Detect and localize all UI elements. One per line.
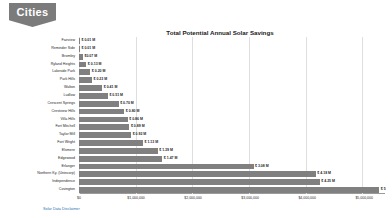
- bar[interactable]: [79, 54, 83, 60]
- chart-title: Total Potential Annual Solar Savings: [120, 29, 320, 37]
- category-label: Covington: [59, 186, 75, 194]
- bar-value-label: $ 4.25 M: [321, 178, 335, 186]
- category-label: Elsmere: [62, 147, 75, 155]
- category-label: Reminder Side: [51, 45, 75, 53]
- solar-savings-dashboard: Cities Total Potential Annual Solar Savi…: [0, 0, 392, 218]
- bar-row[interactable]: $ 4.25 M: [79, 178, 385, 186]
- bar[interactable]: [79, 156, 162, 162]
- bar-row[interactable]: $ 0.86 M: [79, 116, 385, 124]
- category-label: Fort Wright: [57, 139, 75, 147]
- bar-row[interactable]: $ 0.01 M: [79, 37, 385, 45]
- bar-value-label: $ 0.23 M: [94, 76, 108, 84]
- category-label: Bromley: [62, 53, 75, 61]
- category-label: Park Hills: [60, 76, 75, 84]
- category-axis-labels: FairviewReminder SideBromleyRyland Heigh…: [41, 37, 77, 194]
- category-label: Ryland Heights: [51, 61, 75, 69]
- logo-label: Cities: [9, 6, 56, 18]
- bar-value-label: $ 0.20 M: [92, 68, 106, 76]
- category-label: Crescent Springs: [47, 100, 75, 108]
- bar[interactable]: [79, 93, 108, 99]
- bar[interactable]: [79, 38, 80, 44]
- bar[interactable]: [79, 164, 254, 170]
- bar[interactable]: [79, 171, 316, 177]
- bar-row[interactable]: $ 0.01 M: [79, 45, 385, 53]
- bar[interactable]: [79, 132, 131, 138]
- bar-row[interactable]: $ 0.23 M: [79, 76, 385, 84]
- category-label: Walton: [64, 84, 75, 92]
- bar[interactable]: [79, 109, 124, 115]
- bar-value-label: $ 0.01 M: [82, 37, 96, 45]
- category-label-row: Taylor Mill: [41, 131, 77, 139]
- category-label-row: Ryland Heights: [41, 61, 77, 69]
- bar[interactable]: [79, 101, 119, 107]
- category-label: Taylor Mill: [59, 131, 75, 139]
- category-label-row: Erlanger: [41, 163, 77, 171]
- bar-value-label: $ 3.08 M: [255, 163, 269, 171]
- bar[interactable]: [79, 179, 320, 185]
- bar-row[interactable]: $ 3.08 M: [79, 163, 385, 171]
- bar-row[interactable]: $ 0.13 M: [79, 61, 385, 69]
- x-tick-label: $1,000,000: [127, 195, 145, 201]
- bar-value-label: $ 1.39 M: [159, 147, 173, 155]
- x-tick-label: $2,000,000: [184, 195, 202, 201]
- solar-data-disclaimer-link[interactable]: Solar Data Disclaimer: [43, 206, 80, 212]
- category-label: Crestview Hills: [51, 108, 75, 116]
- category-label-row: Park Hills: [41, 76, 77, 84]
- bar-row[interactable]: $ 0.20 M: [79, 68, 385, 76]
- x-tick-label: $3,000,000: [241, 195, 259, 201]
- bar-row[interactable]: $ 5: [79, 186, 385, 194]
- category-label-row: Fort Wright: [41, 139, 77, 147]
- category-label-row: Walton: [41, 84, 77, 92]
- bar[interactable]: [79, 187, 379, 193]
- bar[interactable]: [79, 77, 92, 83]
- category-label-row: Fairview: [41, 37, 77, 45]
- x-axis-tick-labels: $0$1,000,000$2,000,000$3,000,000$4,000,0…: [79, 195, 387, 204]
- bar[interactable]: [79, 140, 143, 146]
- bar-row[interactable]: $ 0.80 M: [79, 108, 385, 116]
- bar[interactable]: [79, 69, 90, 75]
- category-label: Ludlow: [64, 92, 75, 100]
- bar[interactable]: [79, 148, 158, 154]
- category-label-row: Elsmere: [41, 147, 77, 155]
- category-label: Northern Ky. (Unincorp): [37, 170, 75, 178]
- bar-value-label: $ 0.92 M: [133, 131, 147, 139]
- bar-value-label: $ 0.86 M: [129, 116, 143, 124]
- bar[interactable]: [79, 46, 80, 52]
- bar-row[interactable]: $0.07 M: [79, 53, 385, 61]
- bar[interactable]: [79, 85, 102, 91]
- bar-row[interactable]: $ 1.13 M: [79, 139, 385, 147]
- category-label-row: Edgewood: [41, 155, 77, 163]
- bar-value-label: $ 0.51 M: [109, 92, 123, 100]
- category-label: Villa Hills: [60, 116, 75, 124]
- category-label: Edgewood: [58, 155, 75, 163]
- bar-row[interactable]: $ 0.41 M: [79, 84, 385, 92]
- bar-row[interactable]: $ 1.47 M: [79, 155, 385, 163]
- category-label-row: Crestview Hills: [41, 108, 77, 116]
- x-tick-label: $5,000,000: [355, 195, 373, 201]
- category-label-row: Villa Hills: [41, 116, 77, 124]
- bar-value-label: $ 5: [381, 186, 386, 194]
- category-label: Fairview: [62, 37, 75, 45]
- x-tick-label: $4,000,000: [298, 195, 316, 201]
- cities-logo[interactable]: Cities: [9, 3, 56, 27]
- bar-row[interactable]: $ 0.92 M: [79, 131, 385, 139]
- bar-value-label: $ 0.70 M: [120, 100, 134, 108]
- bar-value-label: $ 0.13 M: [88, 61, 102, 69]
- bar-row[interactable]: $ 0.89 M: [79, 123, 385, 131]
- category-label-row: Fort Mitchell: [41, 123, 77, 131]
- bar-value-label: $ 0.80 M: [126, 108, 140, 116]
- category-label-row: Bromley: [41, 53, 77, 61]
- bar[interactable]: [79, 124, 129, 130]
- category-label-row: Northern Ky. (Unincorp): [41, 170, 77, 178]
- bar-row[interactable]: $ 0.51 M: [79, 92, 385, 100]
- category-label-row: Reminder Side: [41, 45, 77, 53]
- bar-row[interactable]: $ 0.70 M: [79, 100, 385, 108]
- category-label: Lakeside Park: [52, 68, 75, 76]
- bar-row[interactable]: $ 1.39 M: [79, 147, 385, 155]
- bar-value-label: $ 1.47 M: [164, 155, 178, 163]
- bar-row[interactable]: $ 4.18 M: [79, 170, 385, 178]
- bar[interactable]: [79, 62, 86, 68]
- category-label: Fort Mitchell: [55, 123, 75, 131]
- bar-chart-plot-area: FairviewReminder SideBromleyRyland Heigh…: [41, 37, 385, 194]
- bar[interactable]: [79, 117, 128, 123]
